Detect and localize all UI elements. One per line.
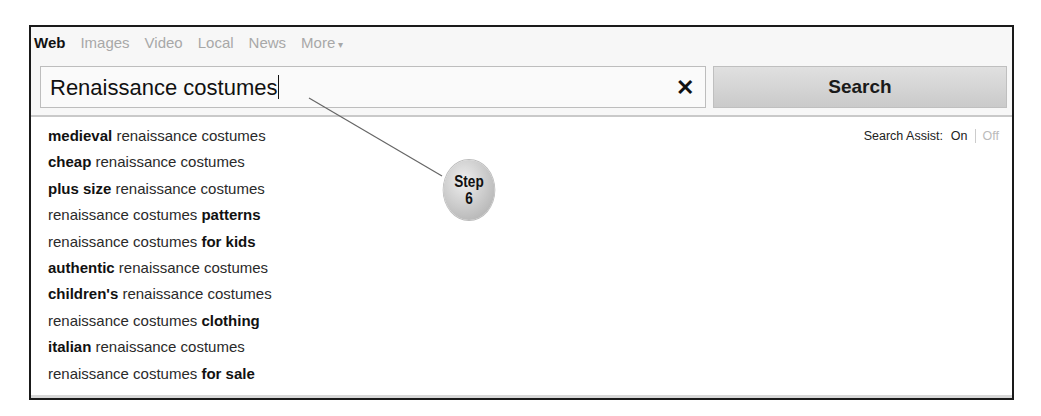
suggestion-text: renaissance costumes — [48, 206, 197, 223]
suggestion-text: renaissance costumes — [119, 259, 268, 276]
search-assist-off[interactable]: Off — [983, 129, 999, 143]
step-callout-label: Step — [454, 173, 483, 190]
suggestion-item[interactable]: cheap renaissance costumes — [48, 149, 272, 175]
suggestion-bold-prefix: authentic — [48, 259, 115, 276]
search-assist-label: Search Assist: — [864, 129, 943, 143]
tab-more[interactable]: More▾ — [301, 34, 343, 51]
step-callout-number: 6 — [465, 190, 473, 207]
search-input-value: Renaissance costumes — [50, 75, 279, 101]
suggestion-bold-suffix: for kids — [201, 233, 255, 250]
suggestion-item[interactable]: children's renaissance costumes — [48, 281, 272, 307]
suggestion-item[interactable]: renaissance costumes patterns — [48, 202, 272, 228]
search-button[interactable]: Search — [713, 66, 1007, 108]
suggestion-text: renaissance costumes — [122, 285, 271, 302]
suggestion-item[interactable]: medieval renaissance costumes — [48, 123, 272, 149]
suggestion-list: medieval renaissance costumes cheap rena… — [48, 123, 272, 387]
search-query-text: Renaissance costumes — [50, 75, 277, 100]
suggestion-text: renaissance costumes — [116, 127, 265, 144]
suggestion-text: renaissance costumes — [96, 338, 245, 355]
suggestion-bold-prefix: medieval — [48, 127, 112, 144]
search-panel: Web Images Video Local News More▾ Renais… — [29, 25, 1014, 400]
tab-news[interactable]: News — [249, 34, 287, 51]
close-icon[interactable]: ✕ — [676, 75, 694, 101]
suggestion-bold-prefix: children's — [48, 285, 118, 302]
panel-bottom-edge — [31, 395, 1012, 398]
suggestion-text: renaissance costumes — [48, 312, 197, 329]
tab-video[interactable]: Video — [145, 34, 183, 51]
tab-more-label: More — [301, 34, 335, 51]
caret-down-icon: ▾ — [338, 39, 343, 50]
suggestion-bold-prefix: cheap — [48, 153, 91, 170]
tab-local[interactable]: Local — [198, 34, 234, 51]
tab-images[interactable]: Images — [80, 34, 129, 51]
suggestion-item[interactable]: italian renaissance costumes — [48, 334, 272, 360]
step-callout-badge: Step 6 — [444, 160, 495, 220]
suggestion-text: renaissance costumes — [116, 180, 265, 197]
vertical-tabs: Web Images Video Local News More▾ — [34, 34, 358, 51]
search-input[interactable]: Renaissance costumes ✕ — [40, 66, 706, 108]
suggestion-item[interactable]: renaissance costumes for sale — [48, 361, 272, 387]
suggestion-text: renaissance costumes — [96, 153, 245, 170]
suggestion-bold-suffix: clothing — [201, 312, 259, 329]
suggestion-item[interactable]: renaissance costumes clothing — [48, 308, 272, 334]
search-assist-on[interactable]: On — [951, 129, 968, 143]
suggestion-text: renaissance costumes — [48, 365, 197, 382]
search-assist-toggle: Search Assist: On Off — [864, 129, 999, 143]
suggestion-bold-prefix: plus size — [48, 180, 111, 197]
suggestion-item[interactable]: plus size renaissance costumes — [48, 176, 272, 202]
suggestion-bold-suffix: patterns — [201, 206, 260, 223]
suggestion-item[interactable]: renaissance costumes for kids — [48, 229, 272, 255]
suggestion-bold-suffix: for sale — [201, 365, 254, 382]
suggestion-text: renaissance costumes — [48, 233, 197, 250]
search-header: Web Images Video Local News More▾ Renais… — [31, 27, 1012, 117]
text-cursor — [278, 75, 279, 99]
suggestion-bold-prefix: italian — [48, 338, 91, 355]
divider — [975, 129, 976, 143]
suggestion-item[interactable]: authentic renaissance costumes — [48, 255, 272, 281]
tab-web[interactable]: Web — [34, 34, 65, 51]
